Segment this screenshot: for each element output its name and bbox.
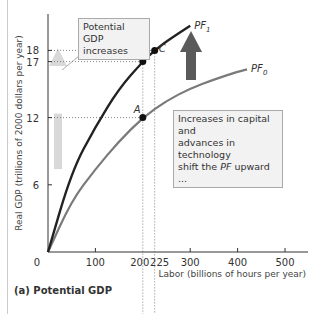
- y-tick-label: 6: [33, 180, 39, 191]
- y-tick-label: 18: [26, 45, 39, 56]
- point-c: [151, 47, 158, 54]
- point-label-c: C: [159, 43, 166, 54]
- potential-gdp-arrow-shaft: [54, 114, 62, 170]
- callout-pf-shift: Increases in capital and advances in tec…: [173, 110, 283, 188]
- y-tick-label: 12: [26, 113, 39, 124]
- callout-text: Increases in capital and: [178, 113, 278, 137]
- curve-label-pf1: PF1: [194, 20, 210, 34]
- x-tick-label: 100: [86, 257, 105, 268]
- x-tick-label: 0: [34, 257, 40, 268]
- x-axis-title: Labor (billions of hours per year): [159, 269, 306, 279]
- curve-label-pf0: PF0: [251, 63, 268, 77]
- pf-shift-arrow-shaft: [186, 52, 196, 80]
- callout-potential-gdp: Potential GDP increases: [78, 18, 150, 60]
- y-tick-label: 17: [26, 57, 39, 68]
- callout-text: Potential GDP: [83, 21, 145, 45]
- x-tick-label: 225: [150, 257, 169, 268]
- point-label-a: A: [133, 104, 141, 115]
- callout-text: increases: [83, 45, 145, 57]
- panel-title: (a) Potential GDP: [14, 285, 112, 296]
- x-tick-label: 200: [130, 257, 149, 268]
- y-axis-title: Real GDP (trillions of 2000 dollars per …: [14, 35, 24, 231]
- callout-text: shift the PF upward ...: [178, 161, 278, 185]
- point-a: [139, 114, 146, 121]
- x-tick-label: 500: [275, 257, 294, 268]
- callout-text: advances in technology: [178, 137, 278, 161]
- pf-shift-arrow-head: [180, 31, 202, 52]
- x-tick-label: 400: [228, 257, 247, 268]
- x-tick-label: 300: [181, 257, 200, 268]
